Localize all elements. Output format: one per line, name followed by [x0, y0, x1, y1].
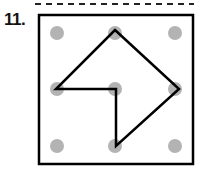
dot	[50, 26, 64, 40]
dot	[50, 139, 64, 153]
geoboard-diagram	[0, 0, 202, 181]
dot	[168, 26, 182, 40]
dot	[168, 139, 182, 153]
